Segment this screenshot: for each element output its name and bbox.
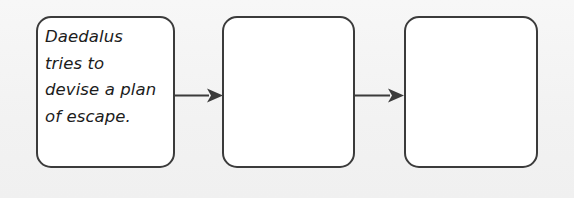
flowchart-node-1-label: Daedalus tries to devise a plan of escap… bbox=[45, 24, 171, 130]
flowchart-arrow-2 bbox=[353, 84, 407, 108]
flowchart-node-1[interactable]: Daedalus tries to devise a plan of escap… bbox=[36, 16, 175, 168]
flowchart-node-2[interactable] bbox=[222, 16, 355, 168]
flowchart-diagram: Daedalus tries to devise a plan of escap… bbox=[0, 0, 574, 198]
flowchart-node-3[interactable] bbox=[404, 16, 538, 168]
flowchart-arrow-1 bbox=[173, 84, 225, 108]
